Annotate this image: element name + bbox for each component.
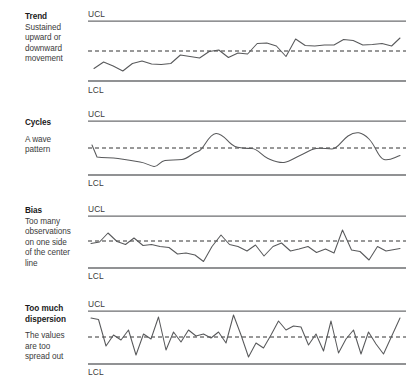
panel-bias-desc-line-1: observations [25,227,87,238]
panel-bias-lcl-label: LCL [88,272,104,281]
panel-cycles-desc-line-1: pattern [25,145,87,156]
panel-cycles: Cycles A wave pattern UCL LCL [0,104,418,196]
panel-bias-ucl-label: UCL [88,205,105,214]
bias-data-line [91,230,400,262]
panel-bias-desc-line-4: line [25,259,87,270]
panel-dispersion-title-line-1: dispersion [25,315,87,326]
panel-dispersion-desc-line-1: are too [25,342,87,353]
panel-dispersion-title-line-0: Too much [25,304,87,315]
panel-bias-desc-line-2: on one side [25,238,87,249]
panel-trend-desc-line-0: Sustained [25,23,87,34]
panel-dispersion-lcl-label: LCL [88,368,104,377]
panel-cycles-lcl-label: LCL [88,179,104,188]
panel-trend-desc-line-1: upward or [25,33,87,44]
panel-bias-desc-line-0: Too many [25,217,87,228]
panel-trend-chart [88,20,406,84]
trend-data-line [94,38,400,71]
panel-trend-ucl-label: UCL [88,10,105,19]
dispersion-series-svg [88,310,406,367]
cycles-data-line [92,133,400,167]
panel-dispersion-desc-line-2: spread out [25,352,87,363]
panel-bias: Bias Too many observations on one side o… [0,196,418,292]
panel-trend-label: Trend Sustained upward or downward movem… [25,12,87,65]
panel-cycles-desc-line-0: A wave [25,135,87,146]
panel-dispersion-desc-line-0: The values [25,331,87,342]
control-chart-figure: Trend Sustained upward or downward movem… [0,0,418,388]
panel-trend-desc-line-2: downward [25,44,87,55]
panel-trend: Trend Sustained upward or downward movem… [0,0,418,104]
panel-too-much-dispersion: Too much dispersion The values are too s… [0,292,418,388]
panel-trend-lcl-label: LCL [88,86,104,95]
panel-cycles-title: Cycles [25,118,87,129]
cycles-series-svg [88,120,406,178]
panel-trend-desc-line-3: movement [25,54,87,65]
panel-cycles-chart [88,120,406,178]
panel-bias-title: Bias [25,206,87,217]
panel-dispersion-label: Too much dispersion The values are too s… [25,304,87,363]
panel-dispersion-chart [88,310,406,367]
panel-bias-desc-line-3: of the center [25,248,87,259]
panel-bias-chart [88,215,406,271]
trend-series-svg [88,20,406,84]
dispersion-data-line [91,315,400,357]
bias-series-svg [88,215,406,271]
panel-bias-label: Bias Too many observations on one side o… [25,206,87,270]
panel-cycles-label: Cycles A wave pattern [25,118,87,156]
panel-cycles-ucl-label: UCL [88,110,105,119]
panel-trend-title: Trend [25,12,87,23]
panel-dispersion-ucl-label: UCL [88,300,105,309]
